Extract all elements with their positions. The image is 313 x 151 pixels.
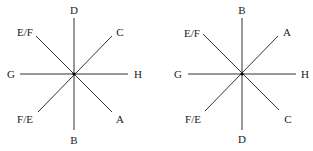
- label-top-left: E/F: [184, 28, 200, 39]
- label-bottom-left: F/E: [185, 114, 201, 125]
- left-star-lines: [0, 0, 156, 151]
- right-star-diagram: B A H C D F/E G E/F: [157, 0, 313, 151]
- center-dot: [240, 72, 243, 75]
- label-bottom: D: [238, 134, 246, 145]
- left-star-diagram: D C H A B F/E G E/F: [0, 0, 156, 151]
- center-dot: [72, 72, 75, 75]
- label-top: D: [70, 5, 78, 16]
- label-bottom: B: [70, 135, 77, 146]
- label-top-right: A: [283, 27, 291, 38]
- label-bottom-left: F/E: [17, 114, 33, 125]
- label-left: G: [7, 69, 15, 80]
- label-top-left: E/F: [17, 27, 33, 38]
- label-right: H: [301, 69, 309, 80]
- label-left: G: [174, 69, 182, 80]
- label-right: H: [134, 69, 142, 80]
- label-top-right: C: [116, 27, 123, 38]
- label-bottom-right: A: [116, 114, 124, 125]
- label-top: B: [238, 5, 245, 16]
- diagonal-line-tl-br: [203, 34, 279, 110]
- label-bottom-right: C: [284, 114, 291, 125]
